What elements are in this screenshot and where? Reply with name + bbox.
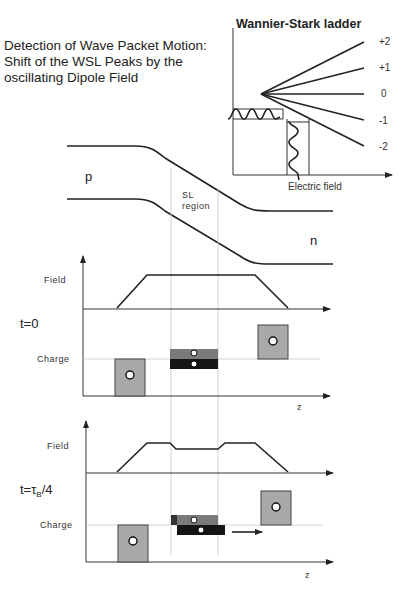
charge-label-t0: Charge [37, 354, 70, 364]
positive-layer-edge [171, 515, 177, 525]
wsl-level-line [261, 68, 364, 94]
wsl-x-label: Electric field [288, 181, 342, 192]
p-label: p [85, 169, 92, 184]
field-label-t1: Field [47, 441, 69, 451]
sl-label-2: region [182, 201, 210, 211]
wsl-level-label: +2 [379, 36, 391, 47]
panel-t0: Field t=0 Charge z [20, 256, 330, 412]
hole-icon [191, 350, 197, 356]
vertical-wave-icon [289, 121, 299, 180]
electron-icon [126, 371, 134, 379]
hole-icon [272, 503, 280, 511]
hole-icon [191, 517, 197, 523]
wsl-level-label: -1 [379, 115, 388, 126]
horizontal-wave-icon [228, 109, 280, 119]
title-line-3: oscillating Dipole Field [4, 70, 138, 85]
electron-icon [198, 527, 204, 533]
time-label-t0: t=0 [20, 316, 38, 331]
title-line-2: Shift of the WSL Peaks by the [4, 54, 183, 69]
field-label-t0: Field [44, 275, 66, 285]
charge-label-t1: Charge [40, 520, 73, 530]
z-label-t1: z [305, 570, 310, 580]
field-profile-t0 [117, 275, 288, 308]
sl-label-1: SL [182, 190, 194, 200]
wsl-level-label: 0 [381, 88, 387, 99]
title-line-1: Detection of Wave Packet Motion: [4, 38, 207, 53]
wsl-level-line [261, 42, 364, 94]
z-label-t0: z [297, 402, 302, 412]
band-diagram: p n SL region [67, 146, 333, 264]
field-profile-t1 [117, 443, 288, 472]
diagram-canvas: Detection of Wave Packet Motion: Shift o… [0, 0, 413, 593]
time-label-t1: t=τB/4 [20, 482, 53, 499]
wsl-level-label: +1 [379, 62, 391, 73]
wsl-level-line [261, 94, 364, 146]
panel-t1: Field t=τB/4 Charge z [20, 421, 333, 580]
electron-icon [129, 537, 137, 545]
wsl-inset: Wannier-Stark ladder +2 +1 0 -1 -2 Elect… [228, 17, 392, 192]
electron-icon [191, 361, 197, 367]
wsl-level-line [261, 94, 364, 120]
hole-icon [269, 337, 277, 345]
wsl-level-label: -2 [379, 141, 388, 152]
n-label: n [310, 233, 317, 248]
wsl-title: Wannier-Stark ladder [236, 17, 361, 31]
